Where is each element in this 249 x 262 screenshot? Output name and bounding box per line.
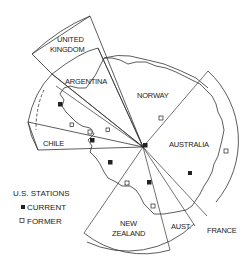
label-norway: NORWAY bbox=[137, 91, 169, 100]
station-former bbox=[125, 181, 129, 185]
sector-argentina bbox=[52, 48, 143, 147]
station-current bbox=[143, 143, 148, 148]
argentina-outer-arc bbox=[28, 74, 52, 122]
station-current bbox=[147, 180, 152, 185]
label-france: FRANCE bbox=[207, 226, 237, 235]
ray-aust-west bbox=[143, 147, 170, 250]
legend-title: U.S. STATIONS bbox=[13, 189, 70, 198]
label-new-zealand-2: ZEALAND bbox=[112, 229, 146, 238]
label-new-zealand-1: NEW bbox=[120, 219, 138, 228]
station-current bbox=[188, 171, 192, 175]
label-argentina: ARGENTINA bbox=[65, 77, 107, 86]
station-current bbox=[58, 102, 63, 107]
station-former bbox=[224, 149, 228, 153]
station-former bbox=[159, 116, 163, 120]
antarctica-claims-map: UNITED KINGDOM ARGENTINA CHILE NORWAY AU… bbox=[0, 0, 249, 262]
outer-boundary-arc bbox=[208, 71, 238, 202]
station-former bbox=[70, 123, 74, 127]
legend: U.S. STATIONS CURRENT FORMER bbox=[13, 189, 70, 226]
ray-france-west bbox=[143, 147, 195, 226]
label-united-kingdom-2: KINGDOM bbox=[50, 45, 84, 54]
legend-former-label: FORMER bbox=[27, 217, 62, 226]
station-former bbox=[88, 130, 92, 134]
legend-current-swatch bbox=[21, 205, 25, 209]
label-australia: AUSTRALIA bbox=[169, 140, 209, 149]
legend-current-label: CURRENT bbox=[27, 203, 66, 212]
label-aust: AUST. bbox=[171, 222, 191, 231]
legend-former-swatch bbox=[20, 219, 24, 223]
label-united-kingdom-1: UNITED bbox=[57, 35, 85, 44]
station-current bbox=[108, 160, 113, 165]
station-former bbox=[106, 128, 110, 132]
station-current bbox=[90, 138, 95, 143]
label-chile: CHILE bbox=[43, 139, 64, 148]
ray-norway-east bbox=[143, 71, 208, 147]
station-former bbox=[151, 204, 155, 208]
